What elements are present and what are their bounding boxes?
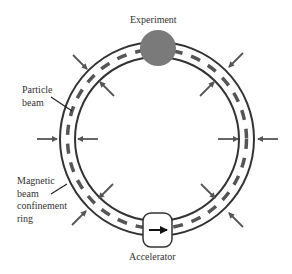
- field-arrow-ll-outer: [72, 211, 86, 225]
- field-arrow-lr-inner: [201, 184, 215, 198]
- experiment-label: Experiment: [130, 14, 177, 27]
- field-arrow-ul-inner: [100, 82, 114, 96]
- field-arrow-ll-inner: [99, 184, 113, 198]
- experiment-chamber: [140, 30, 176, 66]
- field-arrow-lr-outer: [229, 213, 243, 227]
- field-arrow-ur-outer: [229, 53, 243, 67]
- confinement-ring-label: Magnetic beam confinement ring: [17, 175, 67, 225]
- field-arrow-ur-inner: [200, 82, 214, 96]
- field-arrow-ul-outer: [73, 55, 87, 69]
- accelerator-ring-diagram: [0, 0, 292, 274]
- accelerator-label: Accelerator: [129, 251, 176, 264]
- particle-beam-label: Particle beam: [22, 84, 53, 109]
